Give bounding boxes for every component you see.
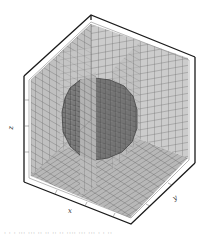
figure-caption-cutoff: · · · ··· ··· ·· ·· ·· ·· ···· ··· ··· ·… [4, 229, 208, 236]
front-slice-plane [80, 72, 96, 195]
voxel-sphere [62, 78, 137, 160]
z-axis-label: z [7, 126, 15, 130]
x-axis-label: x [68, 207, 72, 215]
